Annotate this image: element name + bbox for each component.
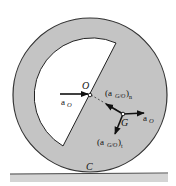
svg-text:O: O (67, 101, 72, 108)
svg-text:a: a (143, 113, 147, 123)
svg-text:a: a (61, 97, 65, 107)
svg-text:n: n (129, 94, 132, 100)
ao-arrow-at-g (123, 113, 144, 114)
label-g: G (121, 117, 128, 128)
label-c: C (86, 161, 93, 172)
point-o (88, 93, 92, 97)
wheel-diagram: O a O (a G/O ) n G a O (a G/O ) t C (0, 0, 176, 186)
ground (10, 173, 168, 182)
label-o: O (82, 80, 89, 91)
svg-text:(a: (a (97, 137, 104, 147)
svg-text:G/O: G/O (107, 142, 118, 148)
svg-text:(a: (a (105, 88, 112, 98)
svg-text:G/O: G/O (115, 93, 126, 99)
point-g (121, 112, 125, 116)
svg-text:O: O (149, 117, 154, 124)
ground-line (10, 173, 168, 174)
ground-strip (10, 174, 168, 182)
